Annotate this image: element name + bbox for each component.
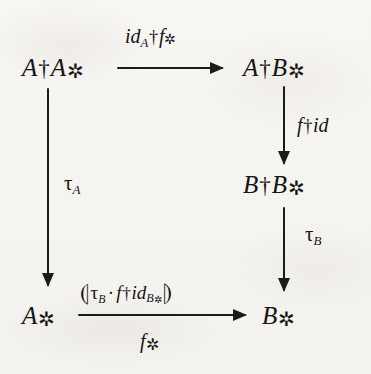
label-bottom-arrow-below-text: f✲ bbox=[140, 330, 159, 352]
label-right-upper-arrow-text: f†id bbox=[297, 114, 329, 136]
node-top-left: A†A✲ bbox=[22, 55, 83, 80]
arrow-top-head bbox=[210, 62, 224, 74]
node-top-right: A†B✲ bbox=[243, 55, 304, 80]
arrow-bottom-head bbox=[233, 309, 247, 321]
label-right-upper-arrow: f†id bbox=[297, 115, 329, 135]
arrow-top bbox=[117, 62, 223, 74]
node-bottom-left-text: A✲ bbox=[22, 302, 55, 329]
arrow-bottom-shaft bbox=[78, 314, 246, 316]
label-right-lower-arrow: τB bbox=[305, 224, 321, 247]
arrow-left-shaft bbox=[47, 88, 49, 286]
label-top-arrow: idA†f✲ bbox=[125, 26, 176, 49]
node-bottom-right: B✲ bbox=[262, 303, 295, 328]
node-mid-right-text: B†B✲ bbox=[243, 171, 304, 198]
arrow-bottom bbox=[78, 309, 246, 321]
node-top-left-text: A†A✲ bbox=[22, 54, 83, 81]
arrow-right-lower-head bbox=[278, 278, 290, 292]
label-top-arrow-text: idA†f✲ bbox=[125, 25, 176, 47]
label-bottom-arrow-above-text: ⦇ τB·f†idB✲ ⦈ bbox=[80, 282, 172, 303]
arrow-left bbox=[42, 88, 54, 286]
arrow-right-lower bbox=[278, 207, 290, 291]
label-left-arrow: τA bbox=[64, 173, 80, 196]
node-top-right-text: A†B✲ bbox=[243, 54, 304, 81]
arrow-right-upper-head bbox=[278, 151, 290, 165]
label-bottom-arrow-above: ⦇ τB·f†idB✲ ⦈ bbox=[80, 280, 172, 305]
label-left-arrow-text: τA bbox=[64, 171, 80, 195]
arrow-top-shaft bbox=[117, 67, 223, 69]
arrow-left-head bbox=[42, 273, 54, 287]
label-right-lower-arrow-text: τB bbox=[305, 222, 321, 246]
node-bottom-right-text: B✲ bbox=[262, 302, 295, 329]
arrow-right-upper bbox=[278, 86, 290, 164]
node-bottom-left: A✲ bbox=[22, 303, 55, 328]
diagram-canvas: A†A✲ A†B✲ B†B✲ A✲ B✲ idA†f✲ f†id bbox=[0, 0, 371, 374]
node-mid-right: B†B✲ bbox=[243, 172, 304, 197]
label-bottom-arrow-below: f✲ bbox=[140, 331, 159, 351]
